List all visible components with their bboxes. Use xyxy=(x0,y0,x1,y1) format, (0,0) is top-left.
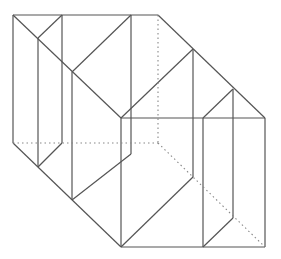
edge-line xyxy=(121,49,193,118)
edge-line xyxy=(72,154,131,200)
edge-line xyxy=(13,143,121,247)
edge-line xyxy=(203,218,233,247)
edge-line xyxy=(203,89,233,118)
edge-line xyxy=(121,177,193,247)
edge-line xyxy=(72,15,131,72)
hidden-edges xyxy=(13,15,265,247)
edge-line xyxy=(13,15,121,118)
edge-line xyxy=(38,143,62,167)
visible-edges xyxy=(13,15,265,247)
edge-line xyxy=(38,15,62,38)
polyhedron-drawing xyxy=(0,0,281,259)
